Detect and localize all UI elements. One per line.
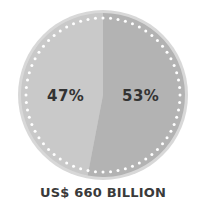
pie-chart	[0, 0, 206, 206]
chart-caption: US$ 660 BILLION	[0, 185, 206, 200]
slice-label-left: 47%	[47, 87, 84, 105]
slice-label-right: 53%	[122, 87, 159, 105]
